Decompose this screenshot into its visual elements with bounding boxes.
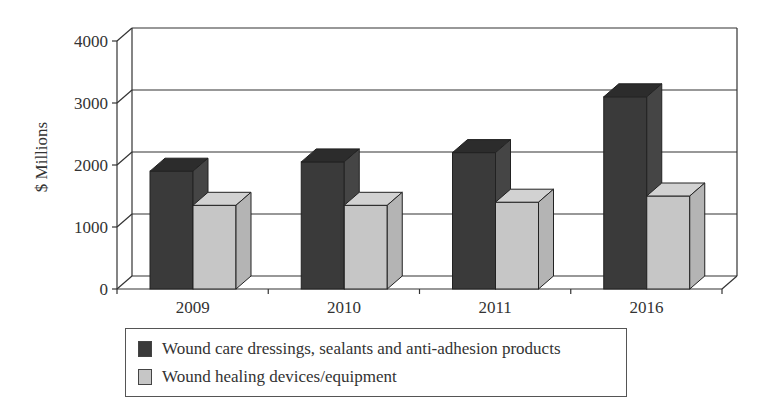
- y-tick-label: 1000: [74, 218, 108, 237]
- chart-plot-area: 010002000300040002009201020112016: [0, 0, 767, 320]
- y-axis-label: $ Millions: [32, 122, 52, 192]
- legend-label: Wound healing devices/equipment: [162, 367, 397, 387]
- y-tick-label: 0: [100, 280, 109, 299]
- y-tick-label: 4000: [74, 32, 108, 51]
- x-tick-label: 2009: [176, 298, 210, 317]
- legend-swatch-dark: [138, 341, 152, 357]
- legend-label: Wound care dressings, sealants and anti-…: [162, 339, 561, 359]
- y-tick-label: 3000: [74, 94, 108, 113]
- legend: Wound care dressings, sealants and anti-…: [125, 328, 627, 397]
- legend-item-series-2: Wound healing devices/equipment: [138, 363, 626, 391]
- bar: [647, 183, 705, 289]
- x-tick-label: 2016: [629, 298, 663, 317]
- bar: [344, 192, 402, 289]
- bar: [193, 192, 251, 289]
- y-tick-label: 2000: [74, 156, 108, 175]
- x-tick-label: 2011: [478, 298, 511, 317]
- bar: [496, 189, 554, 289]
- x-tick-label: 2010: [327, 298, 361, 317]
- legend-swatch-light: [138, 369, 152, 385]
- legend-item-series-1: Wound care dressings, sealants and anti-…: [138, 335, 626, 363]
